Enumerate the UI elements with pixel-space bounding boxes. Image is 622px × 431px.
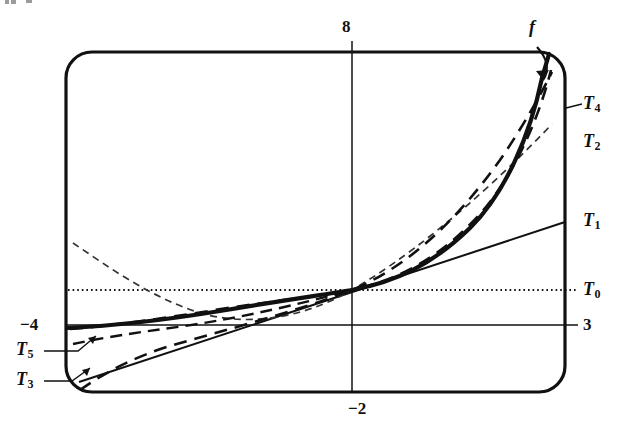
curve-label-T3-sub: 3 bbox=[28, 377, 34, 391]
figure-root: 8 −2 −4 3 f T4 T2 T1 T0 T5 T3 bbox=[0, 0, 622, 431]
curve-label-T5-base: T bbox=[16, 339, 27, 359]
curve-label-T2-sub: 2 bbox=[595, 139, 601, 153]
axis-label-right: 3 bbox=[583, 316, 592, 333]
curve-label-T4: T4 bbox=[583, 94, 600, 112]
T5-leader-line bbox=[44, 336, 96, 351]
axis-label-left: −4 bbox=[20, 316, 38, 333]
plot-frame bbox=[66, 52, 565, 392]
axis-label-top: 8 bbox=[342, 18, 351, 35]
curve-label-T5-sub: 5 bbox=[28, 347, 34, 361]
curve-label-T0: T0 bbox=[583, 280, 600, 298]
T4-leader-line bbox=[566, 104, 582, 108]
curve-label-T5: T5 bbox=[16, 340, 33, 358]
curve-label-T1-sub: 1 bbox=[595, 218, 601, 232]
curve-label-T3: T3 bbox=[16, 370, 33, 388]
curve-label-T2-base: T bbox=[583, 131, 594, 151]
f-arrowhead-icon bbox=[536, 70, 549, 80]
curve-label-T1: T1 bbox=[583, 211, 600, 229]
curve-label-T0-base: T bbox=[583, 279, 594, 299]
curve-label-f: f bbox=[529, 18, 535, 36]
curve-label-T3-base: T bbox=[16, 369, 27, 389]
curve-label-T1-base: T bbox=[583, 210, 594, 230]
T3-arrowhead-icon bbox=[82, 368, 90, 376]
axis-label-bottom: −2 bbox=[348, 400, 366, 417]
curve-label-T2: T2 bbox=[583, 132, 600, 150]
plot-canvas bbox=[0, 0, 622, 431]
curve-T3 bbox=[80, 72, 552, 390]
curve-label-T4-sub: 4 bbox=[595, 101, 601, 115]
curve-label-f-base: f bbox=[529, 17, 535, 37]
curve-label-T4-base: T bbox=[583, 93, 594, 113]
curve-label-T0-sub: 0 bbox=[595, 287, 601, 301]
